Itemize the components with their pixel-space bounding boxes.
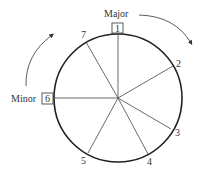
mode-circle-diagram: 1 6 2 3 4 5 7 Major Minor xyxy=(0,0,202,174)
minor-degree-label: 6 xyxy=(45,93,50,104)
major-label: Major xyxy=(104,8,129,19)
degree-label-4: 4 xyxy=(147,156,152,167)
spoke-7 xyxy=(86,42,118,98)
degree-label-2: 2 xyxy=(176,58,181,69)
major-degree-label: 1 xyxy=(115,23,120,34)
counterclockwise-arrow-icon xyxy=(26,35,52,86)
minor-label: Minor xyxy=(11,93,37,104)
degree-label-5: 5 xyxy=(81,155,86,166)
clockwise-arrow-icon xyxy=(139,15,191,43)
spoke-5 xyxy=(88,98,118,153)
spoke-2 xyxy=(118,66,173,98)
degree-label-3: 3 xyxy=(175,127,180,138)
degree-label-7: 7 xyxy=(81,29,86,40)
